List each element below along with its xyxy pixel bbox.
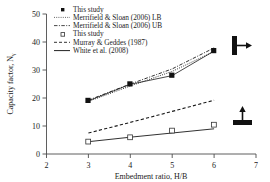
series-merrifield-lb-line xyxy=(88,52,214,102)
y-tick-label-0: 0 xyxy=(36,150,40,159)
series-this-study-horizontal-line xyxy=(88,51,214,101)
figure-container: 50 40 30 20 10 0 2 3 4 5 6 7 Embedment r… xyxy=(0,0,270,182)
x-tick-label-5: 5 xyxy=(170,161,174,170)
vertical-plate-uplift-icon xyxy=(233,106,252,125)
capacity-factor-chart: 50 40 30 20 10 0 2 3 4 5 6 7 Embedment r… xyxy=(0,0,270,182)
series-this-study-vertical-markers xyxy=(86,122,217,144)
y-tick-label-20: 20 xyxy=(32,94,40,103)
series-this-study-horizontal-markers xyxy=(85,48,216,103)
series-merrifield-ub-line xyxy=(88,48,214,100)
legend-marker-filled-square xyxy=(61,8,64,11)
data-point-marker xyxy=(170,128,175,133)
data-point-marker xyxy=(85,98,90,103)
y-axis-title-text: Capacity factor, N xyxy=(6,56,15,115)
y-axis-title: Capacity factor, Nγ xyxy=(6,53,16,115)
svg-text:Capacity factor, Nγ: Capacity factor, Nγ xyxy=(6,53,16,115)
x-axis xyxy=(47,154,257,158)
data-point-marker xyxy=(128,135,133,140)
y-tick-label-40: 40 xyxy=(32,38,40,47)
y-tick-label-30: 30 xyxy=(32,66,40,75)
data-point-marker xyxy=(127,81,132,86)
series-white-line xyxy=(88,129,214,142)
x-tick-label-6: 6 xyxy=(212,161,216,170)
data-point-marker xyxy=(211,48,216,53)
legend-label-white: White et al. (2008) xyxy=(73,46,129,55)
y-axis-title-subscript: γ xyxy=(10,53,16,57)
horizontal-plate-load-icon xyxy=(232,36,252,55)
data-point-marker xyxy=(86,139,91,144)
data-point-marker xyxy=(169,73,174,78)
y-tick-label-10: 10 xyxy=(32,122,40,131)
legend: This study Merrifield & Sloan (2006) LB … xyxy=(54,5,162,56)
legend-marker-open-square xyxy=(61,33,65,37)
x-tick-label-3: 3 xyxy=(86,161,90,170)
series-murray-geddes-line xyxy=(88,100,214,133)
y-axis xyxy=(43,14,47,154)
y-tick-label-50: 50 xyxy=(32,10,40,19)
x-tick-label-4: 4 xyxy=(128,161,132,170)
x-tick-label-7: 7 xyxy=(254,161,258,170)
x-axis-title: Embedment ratio, H/B xyxy=(115,172,188,181)
data-point-marker xyxy=(212,122,217,127)
x-tick-label-2: 2 xyxy=(45,161,49,170)
